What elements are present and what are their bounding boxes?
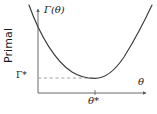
optimal-point-label: θ* [88,96,99,106]
optimal-value-label: Γ* [16,71,27,80]
y-axis-label: Γ(θ) [44,5,65,15]
primal-axis-caption: Primal [3,22,14,70]
plot-canvas [0,0,157,114]
primal-objective-curve [29,5,152,78]
primal-function-figure: Primal Γ(θ) θ Γ* θ* [0,0,157,114]
x-axis-label: θ [138,77,144,87]
